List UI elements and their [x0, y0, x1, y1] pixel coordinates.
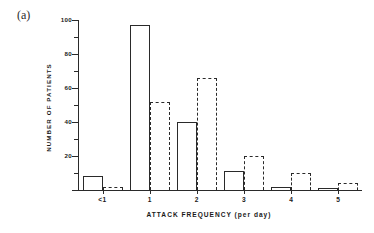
bar-solid-2 — [177, 122, 197, 190]
x-tick-label: 3 — [229, 196, 259, 203]
x-axis-line — [78, 190, 362, 191]
x-tick-label: <1 — [88, 196, 118, 203]
y-axis-title: NUMBER OF PATIENTS — [45, 48, 52, 168]
bar-solid-4 — [271, 187, 291, 190]
panel-label: (a) — [17, 8, 30, 23]
bar-dashed-2 — [197, 78, 217, 190]
bar-dashed-1 — [150, 102, 170, 190]
y-tick-label: 40 — [32, 118, 72, 125]
x-tick-label: 5 — [323, 196, 353, 203]
bar-dashed-4 — [291, 173, 311, 190]
x-tick-label: 1 — [135, 196, 165, 203]
x-tick — [197, 190, 198, 194]
plot-area — [78, 20, 361, 190]
x-tick-label: 4 — [276, 196, 306, 203]
x-tick — [338, 190, 339, 194]
x-tick — [244, 190, 245, 194]
bar-dashed-<1 — [103, 187, 123, 190]
x-tick — [150, 190, 151, 194]
y-tick-major — [72, 190, 78, 191]
bar-dashed-3 — [244, 156, 264, 190]
x-axis-title: ATTACK FREQUENCY (per day) — [78, 211, 340, 218]
x-tick — [103, 190, 104, 194]
bar-solid-5 — [318, 188, 338, 190]
y-tick-label: 100 — [32, 16, 72, 23]
bar-solid-1 — [130, 25, 150, 190]
bar-dashed-5 — [338, 183, 358, 190]
figure-panel-a: (a) NUMBER OF PATIENTS ATTACK FREQUENCY … — [0, 0, 374, 233]
bar-solid-<1 — [83, 176, 103, 190]
y-tick-label: 60 — [32, 84, 72, 91]
bar-solid-3 — [224, 171, 244, 190]
x-tick — [291, 190, 292, 194]
x-tick-label: 2 — [182, 196, 212, 203]
y-tick-label: 20 — [32, 152, 72, 159]
y-tick-label: 80 — [32, 50, 72, 57]
